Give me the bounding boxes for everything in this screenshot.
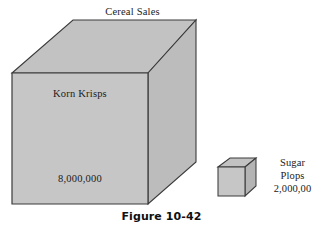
small-cube-label-line1: Sugar: [262, 157, 323, 170]
big-cube-label: Korn Krisps: [12, 88, 148, 99]
figure-caption: Figure 10-42: [0, 211, 323, 223]
small-cube-label-line2: Plops: [262, 170, 323, 183]
figure-canvas: Cereal Sales Korn Krisps 8,000,000 Sugar…: [0, 0, 323, 234]
big-cube-value-label: 8,000,000: [12, 173, 148, 184]
chart-title: Cereal Sales: [0, 6, 265, 17]
small-cube-label-group: Sugar Plops 2,000,00: [262, 157, 323, 195]
small-cube-value-label: 2,000,00: [262, 183, 323, 196]
cube-chart-graphic: [0, 0, 323, 234]
small-cube: [218, 158, 256, 196]
small-cube-front-face: [218, 167, 245, 196]
